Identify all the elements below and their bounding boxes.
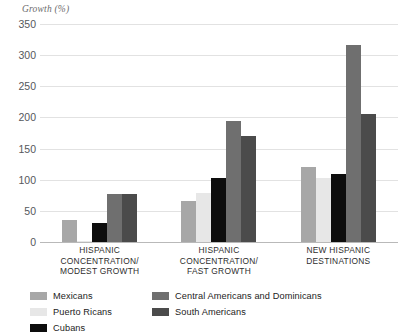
legend-label: Cubans — [53, 323, 85, 333]
bar — [211, 178, 226, 242]
y-tick-50: 50 — [2, 205, 36, 217]
y-tick-300: 300 — [2, 49, 36, 61]
y-tick-100: 100 — [2, 174, 36, 186]
bar — [241, 136, 256, 242]
legend-item[interactable]: Cubans — [30, 321, 112, 333]
legend-label: Puerto Ricans — [53, 307, 112, 317]
category-label-line: NEW HISPANIC — [279, 245, 398, 256]
legend-swatch-icon — [152, 292, 169, 300]
category-label-line: HISPANIC — [159, 245, 278, 256]
category-label-line: CONCENTRATION/ — [159, 256, 278, 267]
legend-item[interactable]: Puerto Ricans — [30, 305, 112, 319]
legend-column-left: MexicansPuerto RicansCubans — [30, 289, 112, 333]
bar — [122, 194, 137, 242]
y-tick-250: 250 — [2, 80, 36, 92]
legend-label: Mexicans — [53, 291, 93, 301]
category-label: HISPANICCONCENTRATION/FAST GROWTH — [159, 245, 278, 277]
y-tick-0: 0 — [2, 236, 36, 248]
bars-layer — [40, 24, 398, 242]
bar-group — [40, 24, 159, 242]
legend-item[interactable]: South Americans — [152, 305, 322, 319]
legend-column-right: Central Americans and DominicansSouth Am… — [152, 289, 322, 321]
gridline-0 — [40, 242, 398, 243]
category-label: HISPANICCONCENTRATION/MODEST GROWTH — [40, 245, 159, 277]
bar — [77, 241, 92, 242]
legend-item[interactable]: Mexicans — [30, 289, 112, 303]
y-tick-200: 200 — [2, 111, 36, 123]
y-axis-tick-labels: 050100150200250300350 — [0, 24, 36, 242]
bar — [196, 193, 211, 242]
legend-swatch-icon — [152, 308, 169, 316]
category-label-line: DESTINATIONS — [279, 256, 398, 267]
bar-group — [279, 24, 398, 242]
plot-area — [40, 24, 398, 242]
bar — [62, 220, 77, 242]
category-label: NEW HISPANICDESTINATIONS — [279, 245, 398, 266]
category-label-line: HISPANIC — [40, 245, 159, 256]
x-axis-category-labels: HISPANICCONCENTRATION/MODEST GROWTHHISPA… — [40, 245, 398, 281]
bar — [107, 194, 122, 242]
bar — [226, 121, 241, 242]
legend-label: Central Americans and Dominicans — [175, 291, 322, 301]
bar — [346, 45, 361, 242]
bar — [331, 174, 346, 243]
growth-bar-chart: Growth (%) 050100150200250300350 HISPANI… — [0, 0, 404, 333]
y-axis-title: Growth (%) — [22, 4, 69, 14]
legend-swatch-icon — [30, 324, 47, 332]
category-label-line: CONCENTRATION/ — [40, 256, 159, 267]
category-label-line: MODEST GROWTH — [40, 266, 159, 277]
bar — [181, 201, 196, 242]
category-label-line: FAST GROWTH — [159, 266, 278, 277]
legend-swatch-icon — [30, 292, 47, 300]
legend-swatch-icon — [30, 308, 47, 316]
bar-group — [159, 24, 278, 242]
bar — [92, 223, 107, 242]
bar — [361, 114, 376, 242]
bar — [301, 167, 316, 242]
legend-item[interactable]: Central Americans and Dominicans — [152, 289, 322, 303]
bar — [316, 178, 331, 242]
y-tick-350: 350 — [2, 18, 36, 30]
y-tick-150: 150 — [2, 143, 36, 155]
legend-label: South Americans — [175, 307, 246, 317]
